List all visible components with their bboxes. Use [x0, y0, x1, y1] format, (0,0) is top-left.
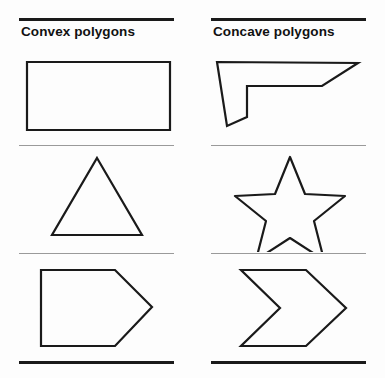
- shape-cell-concave-bent-arrow: [211, 48, 366, 144]
- divider-concave-2: [211, 253, 366, 254]
- shape-cell-convex-pentagon: [19, 255, 174, 360]
- shape-cell-convex-rectangle: [19, 48, 174, 144]
- column-bottom-rule-concave: [211, 361, 366, 364]
- column-title-concave: Concave polygons: [213, 24, 335, 39]
- column-convex: Convex polygons: [19, 0, 174, 378]
- column-bottom-rule-convex: [19, 361, 174, 364]
- polygon-comparison-figure: Convex polygons Concave polygons: [0, 0, 385, 378]
- divider-convex-1: [19, 145, 174, 146]
- column-concave: Concave polygons: [211, 0, 366, 378]
- shape-cell-concave-chevron: [211, 255, 366, 360]
- shape-cell-convex-triangle: [19, 147, 174, 252]
- shape-triangle: [52, 158, 142, 235]
- shape-pentagon: [41, 270, 152, 346]
- shape-chevron: [241, 270, 346, 346]
- column-title-convex: Convex polygons: [21, 24, 135, 39]
- shape-cell-concave-star: [211, 147, 366, 252]
- shape-star: [235, 157, 345, 252]
- column-top-rule-concave: [211, 18, 366, 21]
- column-top-rule-convex: [19, 18, 174, 21]
- shape-bent-arrow: [217, 62, 358, 126]
- divider-concave-1: [211, 145, 366, 146]
- shape-rectangle: [27, 62, 170, 130]
- divider-convex-2: [19, 253, 174, 254]
